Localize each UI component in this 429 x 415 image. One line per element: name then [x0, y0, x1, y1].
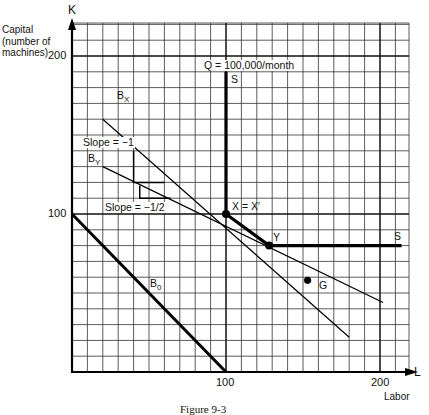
- by-label: BY: [88, 153, 100, 164]
- y-axis-label-line: (number of: [2, 36, 50, 48]
- y-tick-100: 100: [48, 208, 66, 219]
- bx-label-main: B: [117, 89, 124, 101]
- b0-label-main: B: [150, 277, 157, 289]
- point-g: [304, 277, 311, 284]
- by-label-main: B: [88, 152, 95, 164]
- point-x: [222, 210, 230, 218]
- b0-label: B0: [150, 278, 161, 289]
- isoquant-s-right-label: S: [394, 231, 401, 242]
- figure-caption: Figure 9-3: [180, 404, 226, 415]
- point-g-label: G: [319, 280, 327, 291]
- point-y-label: Y: [273, 232, 280, 243]
- point-y: [265, 242, 273, 250]
- y-axis-symbol: K: [68, 4, 76, 16]
- budget-line-by: [103, 167, 383, 303]
- x-axis-label: Labor: [384, 391, 410, 403]
- y-axis-label-line: Capital: [2, 24, 50, 36]
- x-tick-200: 200: [371, 377, 389, 388]
- by-label-sub: Y: [95, 158, 100, 167]
- grid: [72, 23, 409, 372]
- point-x-label: X = X′: [232, 201, 260, 212]
- y-axis-label: Capital (number of machines): [2, 24, 50, 59]
- y-axis-label-line: machines): [2, 47, 50, 59]
- major-gridlines: [72, 23, 409, 372]
- x-tick-100: 100: [216, 377, 234, 388]
- b0-label-sub: 0: [157, 283, 161, 292]
- bx-label-sub: X: [124, 95, 129, 104]
- isoquant-s-top-label: S: [231, 74, 238, 85]
- y-tick-200: 200: [48, 50, 66, 61]
- bx-label: BX: [117, 90, 129, 101]
- slope-label-minus-half: Slope = −1/2: [104, 202, 166, 213]
- isoquant-label: Q = 100,000/month: [203, 60, 295, 71]
- isoquant-s: [226, 72, 402, 246]
- x-axis-symbol: L: [414, 366, 421, 378]
- slope-label-minus-1: Slope = −1: [82, 137, 135, 148]
